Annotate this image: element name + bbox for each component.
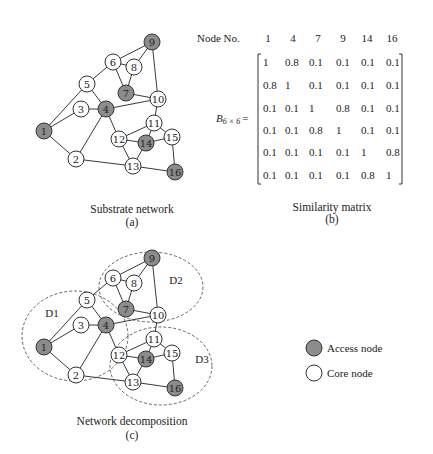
matrix-column-headers: 14791416 xyxy=(265,32,398,44)
c-node-2: 2 xyxy=(68,367,84,383)
core-node-legend-label: Core node xyxy=(327,367,373,379)
a-edge-9-10 xyxy=(152,42,158,99)
node-label: 16 xyxy=(169,167,182,178)
a-node-13: 13 xyxy=(125,158,141,174)
substrate-network-graph: 12345678910111213141516 xyxy=(36,34,183,180)
matrix-symbol: B6 × 6= xyxy=(216,112,248,126)
a-node-2: 2 xyxy=(68,151,84,167)
access-node-legend-label: Access node xyxy=(327,342,382,354)
matrix-cell: 0.1 xyxy=(263,146,277,158)
matrix-cell: 0.1 xyxy=(309,146,323,158)
matrix-cell: 1 xyxy=(336,124,342,136)
matrix-cell: 0.1 xyxy=(386,102,400,114)
node-label: 8 xyxy=(131,278,137,289)
node-label: 7 xyxy=(123,304,129,315)
node-label: 14 xyxy=(140,138,153,149)
matrix-cell: 0.1 xyxy=(309,56,323,68)
node-label: 2 xyxy=(73,154,79,165)
c-node-15: 15 xyxy=(164,345,180,361)
c-edge-2-13 xyxy=(76,375,133,382)
matrix-column-header: 4 xyxy=(290,32,296,44)
matrix-cell: 0.1 xyxy=(336,169,350,181)
c-node-9: 9 xyxy=(144,250,160,266)
c-node-3: 3 xyxy=(73,317,89,333)
figure-canvas: 12345678910111213141516 Substrate networ… xyxy=(0,0,433,454)
a-node-3: 3 xyxy=(73,101,89,117)
matrix-cell: 0.1 xyxy=(285,102,299,114)
matrix-cell: 0.8 xyxy=(285,56,299,68)
c-node-11: 11 xyxy=(146,331,162,347)
matrix-row: 10.80.10.10.10.1 xyxy=(263,56,400,68)
node-label: 6 xyxy=(110,57,116,68)
c-node-4: 4 xyxy=(98,317,114,333)
node-label: 16 xyxy=(169,383,182,394)
c-node-16: 16 xyxy=(167,380,183,396)
panel-a-sub-label: (a) xyxy=(126,216,139,229)
matrix-column-header: 1 xyxy=(265,32,271,44)
matrix-cell: 0.1 xyxy=(263,102,277,114)
domain-d3-label: D3 xyxy=(195,353,209,365)
node-label: 8 xyxy=(131,62,137,73)
panel-c-caption: Network decomposition xyxy=(77,415,188,428)
node-label: 7 xyxy=(123,88,129,99)
node-label: 13 xyxy=(127,377,140,388)
legend: Access node Core node xyxy=(306,340,382,381)
node-label: 1 xyxy=(41,342,47,353)
node-label: 3 xyxy=(78,104,84,115)
matrix-column-header: 16 xyxy=(387,32,399,44)
a-node-4: 4 xyxy=(98,101,114,117)
matrix-cell: 1 xyxy=(309,102,315,114)
matrix-row: 0.810.10.10.10.1 xyxy=(263,79,400,91)
core-node-legend-icon xyxy=(306,365,322,381)
c-node-12: 12 xyxy=(111,347,127,363)
matrix-cell: 0.1 xyxy=(285,124,299,136)
matrix-cell: 0.1 xyxy=(263,124,277,136)
panel-c-sub-label: (c) xyxy=(126,429,139,442)
node-label: 4 xyxy=(103,320,109,331)
node-label: 1 xyxy=(41,126,47,137)
matrix-cell: 0.1 xyxy=(361,56,375,68)
node-label: 15 xyxy=(166,132,179,143)
node-label: 6 xyxy=(110,273,116,284)
a-node-5: 5 xyxy=(79,76,95,92)
matrix-cell: 0.1 xyxy=(336,79,350,91)
matrix-cell: 0.1 xyxy=(386,124,400,136)
node-label: 5 xyxy=(84,79,90,90)
matrix-cell: 0.1 xyxy=(336,56,350,68)
panel-a-caption: Substrate network xyxy=(90,203,174,215)
a-node-14: 14 xyxy=(138,135,154,151)
matrix-right-bracket xyxy=(399,54,402,184)
matrix-cells: 10.80.10.10.10.10.810.10.10.10.10.10.110… xyxy=(263,56,400,181)
domain-d1-label: D1 xyxy=(45,307,58,319)
node-label: 10 xyxy=(152,310,165,321)
matrix-cell: 1 xyxy=(386,169,392,181)
a-node-16: 16 xyxy=(167,164,183,180)
c-edge-9-10 xyxy=(152,258,158,315)
c-node-1: 1 xyxy=(36,339,52,355)
matrix-cell: 0.1 xyxy=(361,102,375,114)
matrix-column-header: 7 xyxy=(315,32,321,44)
a-node-1: 1 xyxy=(36,123,52,139)
access-node-legend-icon xyxy=(306,340,322,356)
a-node-6: 6 xyxy=(105,54,121,70)
matrix-cell: 0.8 xyxy=(263,79,277,91)
a-node-8: 8 xyxy=(126,59,142,75)
matrix-cell: 1 xyxy=(263,56,269,68)
c-node-8: 8 xyxy=(126,275,142,291)
c-node-13: 13 xyxy=(125,374,141,390)
matrix-column-header: 9 xyxy=(340,32,346,44)
a-node-11: 11 xyxy=(146,115,162,131)
c-node-5: 5 xyxy=(79,292,95,308)
matrix-row: 0.10.10.10.110.8 xyxy=(263,146,400,158)
matrix-cell: 0.1 xyxy=(309,169,323,181)
a-node-12: 12 xyxy=(111,131,127,147)
matrix-cell: 0.8 xyxy=(336,102,350,114)
decomposed-network-graph: 12345678910111213141516 xyxy=(36,250,183,396)
matrix-cell: 0.1 xyxy=(285,146,299,158)
matrix-cell: 0.1 xyxy=(386,56,400,68)
matrix-row: 0.10.110.80.10.1 xyxy=(263,102,400,114)
c-node-7: 7 xyxy=(118,301,134,317)
matrix-cell: 1 xyxy=(361,146,367,158)
node-label: 4 xyxy=(103,104,109,115)
matrix-column-header: 14 xyxy=(362,32,374,44)
